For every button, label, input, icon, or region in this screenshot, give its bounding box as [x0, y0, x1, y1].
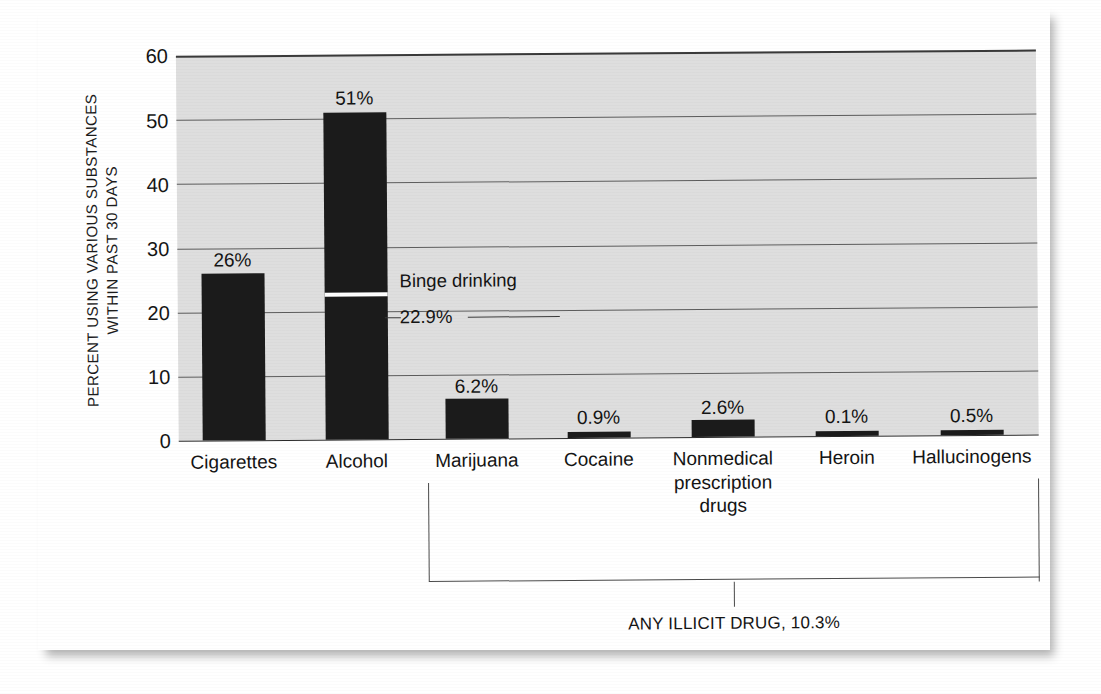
gridline-50: [176, 114, 1036, 121]
bar-alcohol[interactable]: [323, 112, 388, 440]
binge-drinking-line: [325, 292, 388, 296]
y-tick-label-10: 10: [124, 367, 170, 387]
bar-value-hallucinogens: 0.5%: [911, 405, 1031, 427]
bar-heroin[interactable]: [816, 431, 879, 436]
gridline-10: [178, 370, 1038, 377]
bar-nonmedical-prescription-drugs[interactable]: [692, 420, 755, 437]
y-tick-label-50: 50: [122, 111, 168, 131]
y-tick-label-60: 60: [122, 46, 168, 66]
y-tick-label-0: 0: [125, 431, 171, 451]
bar-value-nonmedical-prescription-drugs: 2.6%: [662, 396, 782, 418]
bar-value-cigarettes: 26%: [172, 249, 292, 271]
bar-value-alcohol: 51%: [294, 87, 414, 109]
illicit-bracket-right-arm: [1038, 478, 1040, 581]
illicit-bracket-left-arm: [428, 483, 430, 581]
category-label-line: prescription: [648, 470, 798, 495]
chart-figure: PERCENT USING VARIOUS SUBSTANCES WITHIN …: [0, 0, 1101, 694]
y-tick-label-30: 30: [123, 239, 169, 259]
category-label-line: drugs: [648, 493, 798, 518]
bar-value-marijuana: 6.2%: [416, 375, 536, 397]
category-label-hallucinogens: Hallucinogens: [897, 444, 1047, 469]
bar-marijuana[interactable]: [445, 399, 508, 439]
y-axis-title-line-1: PERCENT USING VARIOUS SUBSTANCES: [81, 40, 104, 460]
y-tick-label-40: 40: [123, 175, 169, 195]
bar-cocaine[interactable]: [568, 432, 631, 438]
bar-value-cocaine: 0.9%: [538, 406, 658, 428]
gridline-40: [177, 178, 1037, 185]
illicit-bracket-label: ANY ILLICIT DRUG, 10.3%: [504, 612, 964, 635]
binge-drinking-label: Binge drinking: [399, 269, 516, 291]
bar-value-heroin: 0.1%: [786, 405, 906, 427]
y-tick-label-20: 20: [124, 303, 170, 323]
illicit-bracket-stem: [734, 582, 735, 607]
binge-drinking-value: 22.9%: [400, 306, 453, 327]
gridline-20: [178, 306, 1038, 313]
gridline-60: [176, 50, 1036, 58]
gridline-30: [177, 242, 1037, 249]
scanned-page: PERCENT USING VARIOUS SUBSTANCES WITHIN …: [0, 0, 1101, 694]
binge-leader-left: [385, 317, 401, 318]
binge-leader-right: [468, 316, 560, 318]
y-axis-title-line-2: WITHIN PAST 30 DAYS: [101, 40, 124, 460]
category-label-line: Hallucinogens: [897, 444, 1047, 469]
bar-hallucinogens[interactable]: [941, 430, 1004, 435]
bar-cigarettes[interactable]: [202, 273, 266, 440]
